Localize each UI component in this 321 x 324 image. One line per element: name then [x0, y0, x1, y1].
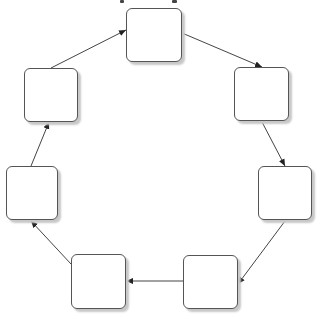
edge-n7-n1: [51, 30, 126, 68]
edge-n2-n3: [262, 122, 285, 166]
edge-n5-n6: [31, 221, 71, 264]
node-4[interactable]: [183, 255, 238, 309]
edge-n1-n2: [182, 33, 262, 67]
edge-n6-n7: [31, 122, 49, 166]
node-7[interactable]: [24, 68, 78, 122]
node-5[interactable]: [71, 254, 126, 309]
node-2[interactable]: [234, 67, 289, 121]
node-6[interactable]: [6, 166, 58, 220]
edge-n3-n4: [238, 221, 285, 284]
node-1[interactable]: [126, 8, 182, 62]
node-3[interactable]: [258, 166, 312, 220]
